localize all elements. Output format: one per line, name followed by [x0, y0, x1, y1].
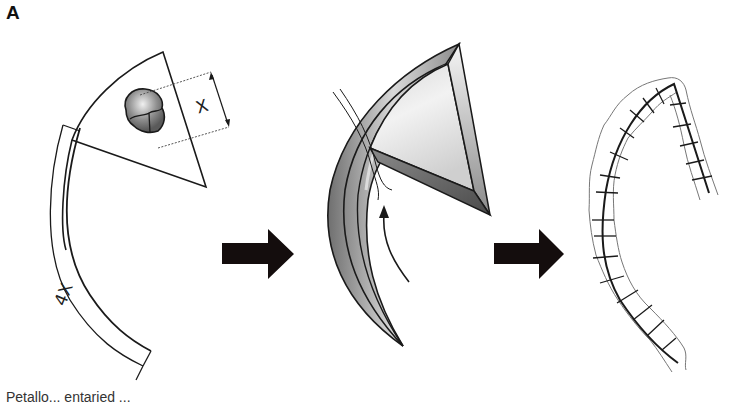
wound-edge-right-inner	[670, 95, 700, 200]
dimension-line-bottom	[158, 127, 229, 148]
step1-flap-design: X 4X	[50, 52, 230, 380]
step2-flap-rotation	[328, 44, 490, 346]
dimension-x-label: X	[193, 95, 211, 118]
wound-edge-outer	[589, 78, 672, 372]
arrow-right-icon	[494, 229, 564, 279]
rotation-arrow-icon	[379, 205, 409, 282]
arrow-right-icon	[222, 229, 294, 279]
dimension-arrow	[209, 72, 230, 127]
pedicle-band-bottom-cap	[143, 351, 151, 366]
suture-line	[603, 84, 709, 363]
step3-sutured-flap	[589, 78, 718, 372]
tumor-icon	[125, 89, 164, 133]
pedicle-band-inner-line	[67, 128, 151, 351]
figure-caption-clipped: Petallo... entaried ...	[6, 389, 131, 405]
pedicle-extension-line	[136, 366, 143, 380]
